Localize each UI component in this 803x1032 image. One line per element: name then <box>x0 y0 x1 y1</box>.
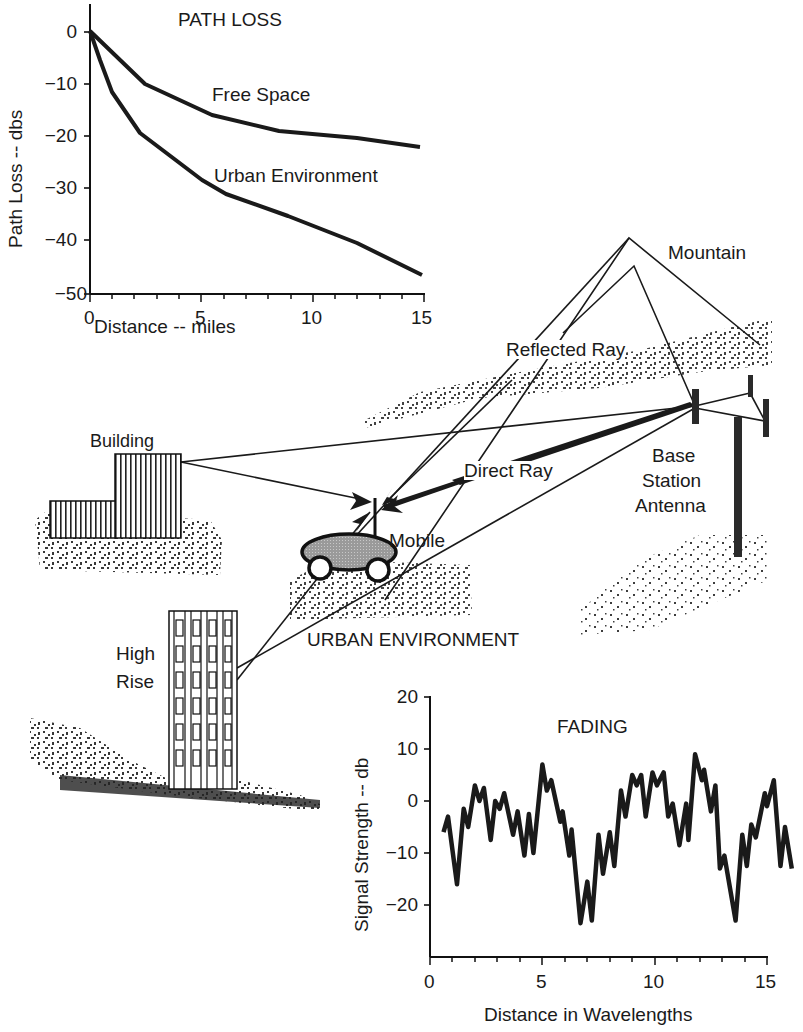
fading-y-tick-0: 0 <box>407 791 418 810</box>
x-axis-ticks <box>430 957 767 965</box>
y-tick-minus10: −10 <box>45 74 77 93</box>
base-label: Base <box>652 446 695 465</box>
urban-environment-area-label: URBAN ENVIRONMENT <box>307 630 519 649</box>
path-loss-chart <box>84 4 425 302</box>
mountain-label: Mountain <box>668 243 746 262</box>
building <box>50 454 181 538</box>
fading-x-tick-15: 15 <box>755 972 776 991</box>
y-tick-minus30: −30 <box>45 178 77 197</box>
base-station-antenna <box>692 375 769 557</box>
direct-ray-label: Direct Ray <box>464 461 553 480</box>
x-tick-10: 10 <box>301 308 322 327</box>
building-label: Building <box>90 432 154 450</box>
fading-y-tick-minus10: −10 <box>386 843 418 862</box>
car-wheel-rear <box>367 559 389 581</box>
fading-y-tick-10: 10 <box>397 739 418 758</box>
path-loss-ylabel: Path Loss -- dbs <box>6 110 25 248</box>
x-tick-5: 5 <box>195 308 206 327</box>
y-tick-0: 0 <box>66 22 77 41</box>
high-rise <box>169 611 237 789</box>
free-space-label: Free Space <box>212 85 310 104</box>
mobile-car <box>302 498 396 581</box>
x-axis-ticks <box>90 294 424 302</box>
urban-environment-label: Urban Environment <box>214 166 378 185</box>
antenna-label: Antenna <box>635 496 706 515</box>
fading-y-tick-minus20: −20 <box>386 895 418 914</box>
fading-ylabel: Signal Strength -- db <box>352 758 371 932</box>
y-tick-minus40: −40 <box>45 230 77 249</box>
x-tick-15: 15 <box>411 308 432 327</box>
rise-label: Rise <box>116 672 154 691</box>
car-wheel-front <box>309 557 331 579</box>
fading-x-tick-5: 5 <box>536 972 547 991</box>
fading-x-tick-0: 0 <box>424 972 435 991</box>
station-label: Station <box>642 471 701 490</box>
y-tick-minus50: −50 <box>55 284 87 303</box>
urban-environment-curve <box>90 31 422 275</box>
mobile-label: Mobile <box>389 531 445 550</box>
high-label: High <box>116 644 155 663</box>
fading-xlabel: Distance in Wavelengths <box>484 1005 692 1024</box>
arrowhead-from-high-rise <box>352 512 370 532</box>
path-loss-title: PATH LOSS <box>178 10 282 29</box>
y-tick-minus20: −20 <box>45 126 77 145</box>
fading-y-tick-20: 20 <box>397 687 418 706</box>
path-loss-xlabel: Distance -- miles <box>94 317 235 336</box>
fading-curve <box>444 754 792 923</box>
reflected-ray-label: Reflected Ray <box>506 340 625 359</box>
x-tick-0: 0 <box>84 308 95 327</box>
figure-canvas <box>0 0 803 1032</box>
fading-title: FADING <box>557 717 628 736</box>
arrowhead-from-building <box>350 492 372 510</box>
fading-x-tick-10: 10 <box>643 972 664 991</box>
